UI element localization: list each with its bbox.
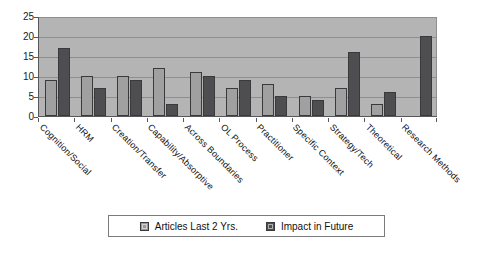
bar [94,88,106,116]
bar [190,72,202,116]
x-axis-category-label: Capability/Absorptive [146,122,217,193]
bar [153,68,165,116]
bar [371,104,383,116]
bar [348,52,360,116]
bar [58,48,70,116]
chart-legend: Articles Last 2 Yrs. Impact in Future [108,215,385,237]
plot-area [38,17,437,117]
x-axis-category-label: HRM [73,122,96,145]
bar [239,80,251,116]
bar [275,96,287,116]
legend-swatch-icon-dark [266,222,275,231]
bar [262,84,274,116]
gridline [39,77,437,78]
bar [226,88,238,116]
legend-label: Articles Last 2 Yrs. [155,221,238,232]
bar [335,88,347,116]
legend-label: Impact in Future [281,221,353,232]
bar [166,104,178,116]
x-axis-labels: Cognition/SocialHRMCreation/TransferCapa… [0,122,495,197]
bar [384,92,396,116]
x-axis-category-label: Research Methods [399,122,462,185]
bar [299,96,311,116]
plot-right-border [436,17,437,116]
bar [81,76,93,116]
gridline [39,17,437,18]
legend-swatch-icon-light [140,222,149,231]
bar [45,80,57,116]
bar [420,36,432,116]
bar [117,76,129,116]
bar [130,80,142,116]
gridline [39,37,437,38]
bar-chart: 0510152025 Cognition/SocialHRMCreation/T… [0,0,495,254]
bar [203,76,215,116]
gridline [39,57,437,58]
legend-item-articles-last-2-yrs: Articles Last 2 Yrs. [140,221,238,232]
bar [312,100,324,116]
legend-item-impact-in-future: Impact in Future [266,221,353,232]
